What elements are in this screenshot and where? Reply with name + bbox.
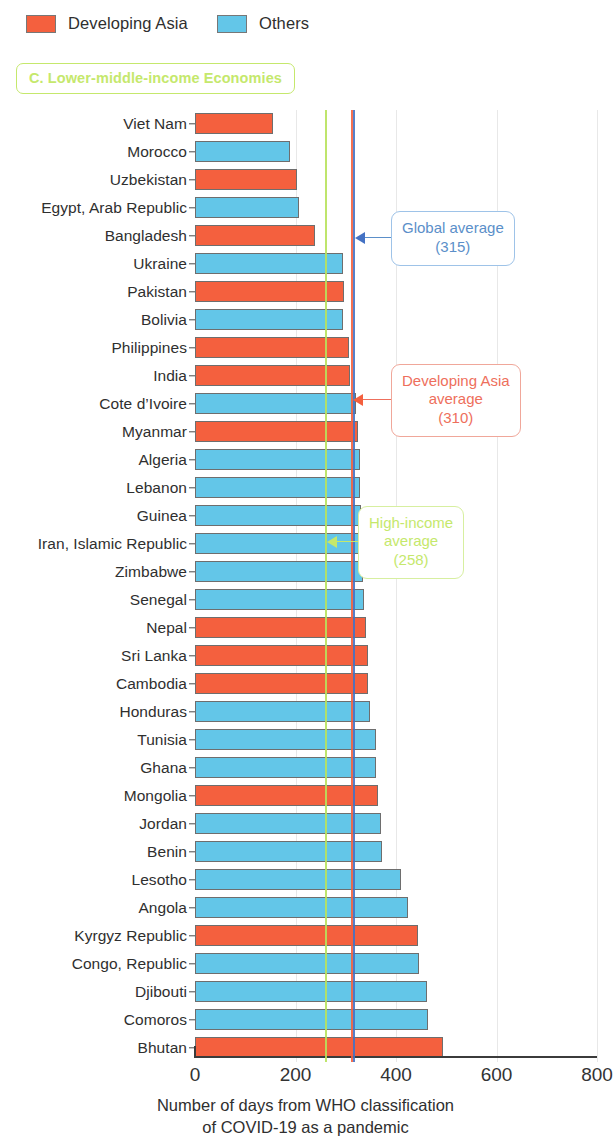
chart-row: Djibouti [195, 978, 597, 1006]
chart-row: Mongolia [195, 782, 597, 810]
legend-label-developing-asia: Developing Asia [68, 14, 188, 33]
callout-text-line: average [402, 390, 510, 409]
chart-row: Angola [195, 894, 597, 922]
callout-leader-developing-asia-average [363, 399, 391, 400]
category-label: Angola [138, 899, 187, 917]
callout-text-line: High-income [369, 514, 453, 533]
callout-text-line: Developing Asia [402, 372, 510, 391]
bar-congo-republic [195, 953, 419, 974]
panel-title: C. Lower-middle-income Economies [29, 70, 282, 86]
bar-pakistan [195, 281, 344, 302]
x-axis-title-line1: Number of days from WHO classification [0, 1094, 611, 1116]
category-label: Pakistan [127, 283, 187, 301]
callout-text-line: (310) [402, 409, 510, 428]
chart-row: Pakistan [195, 278, 597, 306]
category-label: Philippines [111, 339, 187, 357]
category-label: Viet Nam [123, 115, 187, 133]
bar-egypt-arab-republic [195, 197, 299, 218]
x-axis-title-line2: of COVID-19 as a pandemic [0, 1116, 611, 1138]
chart-row: Algeria [195, 446, 597, 474]
chart-plot-area: Viet NamMoroccoUzbekistanEgypt, Arab Rep… [0, 104, 611, 1064]
legend-item-developing-asia: Developing Asia [26, 14, 188, 33]
bar-angola [195, 897, 408, 918]
category-label: Bhutan [138, 1039, 187, 1057]
category-label: Senegal [130, 591, 187, 609]
callout-text-line: Global average [402, 219, 504, 238]
chart-row: Kyrgyz Republic [195, 922, 597, 950]
category-label: Guinea [137, 507, 187, 525]
legend-item-others: Others [217, 14, 309, 33]
category-label: Lesotho [131, 871, 187, 889]
category-label: India [153, 367, 187, 385]
chart-row: Benin [195, 838, 597, 866]
category-label: Zimbabwe [115, 563, 187, 581]
bar-comoros [195, 1009, 428, 1030]
chart-row: Cambodia [195, 670, 597, 698]
category-label: Bolivia [141, 311, 187, 329]
category-label: Ghana [140, 759, 187, 777]
category-label: Uzbekistan [110, 171, 187, 189]
bar-senegal [195, 589, 364, 610]
callout-developing-asia-average: Developing Asiaaverage(310) [391, 364, 521, 437]
chart-row: Philippines [195, 334, 597, 362]
callout-leader-global-average [365, 237, 391, 238]
bar-sri-lanka [195, 645, 368, 666]
chart-row: Comoros [195, 1006, 597, 1034]
bar-kyrgyz-republic [195, 925, 418, 946]
x-axis-line [194, 1056, 597, 1058]
chart-row: Bolivia [195, 306, 597, 334]
legend-swatch-developing-asia [26, 15, 56, 33]
reference-line-high-income-average [325, 110, 327, 1062]
x-tick-label-0: 0 [190, 1064, 201, 1086]
chart-row: Ghana [195, 754, 597, 782]
y-axis-cap [194, 1046, 196, 1058]
x-tick-label-600: 600 [481, 1064, 513, 1086]
x-tick-label-800: 800 [581, 1064, 613, 1086]
category-label: Lebanon [126, 479, 187, 497]
category-label: Honduras [119, 703, 187, 721]
bar-nepal [195, 617, 366, 638]
bar-zimbabwe [195, 561, 363, 582]
bar-ukraine [195, 253, 343, 274]
category-label: Kyrgyz Republic [74, 927, 187, 945]
reference-line-global-average [353, 110, 355, 1062]
chart-row: Tunisia [195, 726, 597, 754]
category-label: Cote d’Ivoire [99, 395, 187, 413]
bar-viet-nam [195, 113, 273, 134]
callout-text-line: (315) [402, 238, 504, 257]
category-label: Cambodia [116, 675, 187, 693]
callout-global-average: Global average(315) [391, 211, 515, 266]
x-axis-ticks: 0200400600800 [0, 1062, 611, 1096]
bar-iran-islamic-republic [195, 533, 363, 554]
bar-guinea [195, 505, 361, 526]
callout-arrow-global-average [355, 232, 365, 244]
callout-text-line: average [369, 532, 453, 551]
category-label: Iran, Islamic Republic [38, 535, 187, 553]
chart-row: Bhutan [195, 1034, 597, 1062]
chart-row: Senegal [195, 586, 597, 614]
bar-uzbekistan [195, 169, 297, 190]
category-label: Djibouti [135, 983, 187, 1001]
category-label: Congo, Republic [72, 955, 187, 973]
bar-djibouti [195, 981, 427, 1002]
bar-cote-d-ivoire [195, 393, 356, 414]
category-label: Myanmar [122, 423, 187, 441]
x-tick-label-200: 200 [280, 1064, 312, 1086]
chart-row: Sri Lanka [195, 642, 597, 670]
chart-row: Lesotho [195, 866, 597, 894]
bar-bolivia [195, 309, 343, 330]
legend-label-others: Others [259, 14, 309, 33]
gridline-800 [597, 110, 598, 1062]
chart-row: Uzbekistan [195, 166, 597, 194]
category-label: Comoros [124, 1011, 187, 1029]
chart-row: Honduras [195, 698, 597, 726]
bar-cambodia [195, 673, 368, 694]
bar-lebanon [195, 477, 360, 498]
chart-row: Nepal [195, 614, 597, 642]
bar-myanmar [195, 421, 358, 442]
category-label: Ukraine [133, 255, 187, 273]
chart-row: Congo, Republic [195, 950, 597, 978]
callout-arrow-developing-asia-average [353, 394, 363, 406]
category-label: Jordan [139, 815, 187, 833]
category-label: Benin [147, 843, 187, 861]
